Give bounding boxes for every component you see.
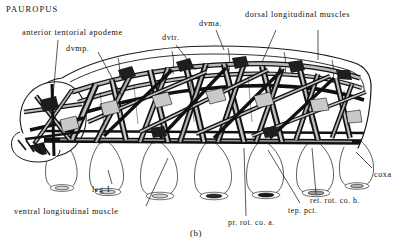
label-ventral-longitudinal-muscle: ventral longitudinal muscle xyxy=(14,207,118,216)
label-dvtr: dvtr. xyxy=(162,33,180,42)
figure-drawing xyxy=(11,30,373,216)
label-dvmp: dvmp. xyxy=(66,44,89,53)
label-dvma: dvma. xyxy=(199,19,222,28)
label-leg-1: leg 1 xyxy=(92,185,111,194)
taxon-label: PAUROPUS xyxy=(6,4,58,14)
label-coxa: coxa xyxy=(374,170,392,179)
leader-pr-rot-co-a xyxy=(244,148,246,216)
coxa-4 xyxy=(194,142,231,198)
label-anterior-tentorial-apodeme: anterior tentorial apodeme xyxy=(22,28,123,37)
label-ret-rot-co-b: ret. rot. co. b. xyxy=(310,196,360,205)
coxa-5 xyxy=(246,142,283,197)
coxa-6 xyxy=(296,141,333,196)
figure-caption: (b) xyxy=(190,228,202,238)
label-pr-rot-co-a: pr. rot. co. a. xyxy=(228,218,275,227)
label-tep-pct: tep. pct. xyxy=(288,206,317,215)
label-dorsal-longitudinal-muscles: dorsal longitudinal muscles xyxy=(245,10,350,19)
coxa-3 xyxy=(140,142,177,198)
